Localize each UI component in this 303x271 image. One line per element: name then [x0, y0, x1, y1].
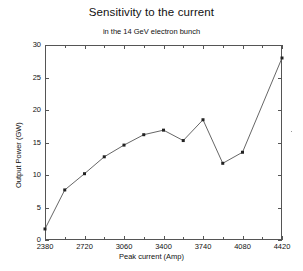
y-tick-mark	[278, 240, 282, 241]
y-tick-label: 30	[15, 40, 41, 49]
x-tick-label: 2720	[65, 242, 105, 251]
data-point-marker	[142, 133, 145, 136]
y-tick-label: 15	[15, 138, 41, 147]
y-tick-label: 5	[15, 203, 41, 212]
y-tick-mark	[45, 240, 49, 241]
data-plot	[45, 45, 282, 240]
data-line	[45, 58, 282, 229]
data-point-marker	[103, 155, 106, 158]
x-tick-label: 4420	[262, 242, 302, 251]
x-tick-label: 3400	[144, 242, 184, 251]
stray-speck	[291, 131, 292, 132]
x-tick-label: 3740	[183, 242, 223, 251]
x-tick-mark	[282, 45, 283, 49]
x-tick-label: 4080	[223, 242, 263, 251]
x-tick-label: 2380	[25, 242, 65, 251]
x-tick-label: 3060	[104, 242, 144, 251]
data-point-marker	[281, 57, 284, 60]
data-point-marker	[241, 151, 244, 154]
x-tick-mark	[282, 236, 283, 240]
y-tick-label: 10	[15, 170, 41, 179]
chart-container: Sensitivity to the current in the 14 GeV…	[0, 0, 303, 271]
chart-subtitle: in the 14 GeV electron bunch	[0, 27, 303, 36]
data-point-marker	[63, 188, 66, 191]
data-point-marker	[182, 139, 185, 142]
x-axis-label: Peak current (Amp)	[0, 252, 303, 261]
data-point-marker	[162, 129, 165, 132]
y-tick-label: 20	[15, 105, 41, 114]
data-point-marker	[202, 118, 205, 121]
data-markers	[44, 57, 284, 231]
data-point-marker	[83, 172, 86, 175]
data-point-marker	[123, 144, 126, 147]
chart-title: Sensitivity to the current	[0, 6, 303, 18]
data-point-marker	[44, 227, 47, 230]
y-tick-label: 25	[15, 73, 41, 82]
data-point-marker	[221, 162, 224, 165]
